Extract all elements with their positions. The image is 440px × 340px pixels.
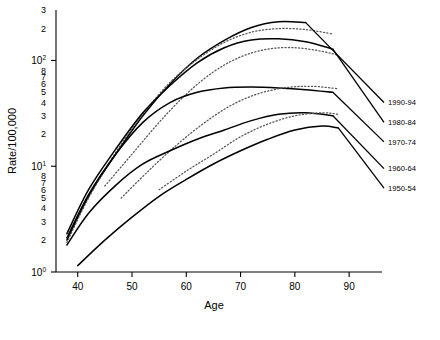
y-major-tick-label: 100 bbox=[31, 266, 46, 278]
x-tick-label: 70 bbox=[235, 281, 247, 292]
y-minor-tick-label: 2 bbox=[41, 24, 46, 34]
x-tick-label: 40 bbox=[72, 281, 84, 292]
legend-label-1990-94: 1990-94 bbox=[388, 98, 416, 107]
y-minor-tick-label: 3 bbox=[41, 111, 46, 121]
legend-label-1960-64: 1960-64 bbox=[388, 164, 416, 173]
x-axis-title: Age bbox=[204, 299, 224, 311]
y-minor-tick-label: 3 bbox=[41, 5, 46, 15]
x-tick-label: 50 bbox=[126, 281, 138, 292]
chart-figure: 1001011022345678234567823405060708090Age… bbox=[0, 0, 440, 340]
y-minor-tick-label: 4 bbox=[41, 98, 46, 108]
y-minor-tick-label: 4 bbox=[41, 203, 46, 213]
y-minor-tick-label: 3 bbox=[41, 217, 46, 227]
legend-label-1950-54: 1950-54 bbox=[388, 184, 416, 193]
legend-leader-line bbox=[338, 128, 384, 188]
legend-leader-line bbox=[333, 116, 384, 169]
series-line-1960-64 bbox=[67, 113, 333, 245]
y-minor-tick-label: 8 bbox=[41, 66, 46, 76]
chart-svg: 1001011022345678234567823405060708090Age… bbox=[0, 0, 440, 340]
series-line-1980-84 bbox=[67, 39, 333, 234]
x-tick-label: 60 bbox=[181, 281, 193, 292]
y-major-tick-label: 101 bbox=[31, 160, 46, 172]
legend-leader-line bbox=[333, 49, 384, 122]
legend-label-1980-84: 1980-84 bbox=[388, 118, 416, 127]
y-minor-tick-label: 2 bbox=[41, 235, 46, 245]
series-line-1960-64-fitted bbox=[159, 113, 338, 190]
legend-label-1970-74: 1970-74 bbox=[388, 138, 416, 147]
y-minor-tick-label: 8 bbox=[41, 171, 46, 181]
y-minor-tick-label: 2 bbox=[41, 129, 46, 139]
x-tick-label: 80 bbox=[289, 281, 301, 292]
legend-leader-line bbox=[333, 92, 384, 142]
series-line-1990-94 bbox=[67, 22, 306, 241]
y-axis-title: Rate/100,000 bbox=[6, 108, 18, 174]
y-major-tick-label: 102 bbox=[31, 54, 46, 66]
x-tick-label: 90 bbox=[344, 281, 356, 292]
